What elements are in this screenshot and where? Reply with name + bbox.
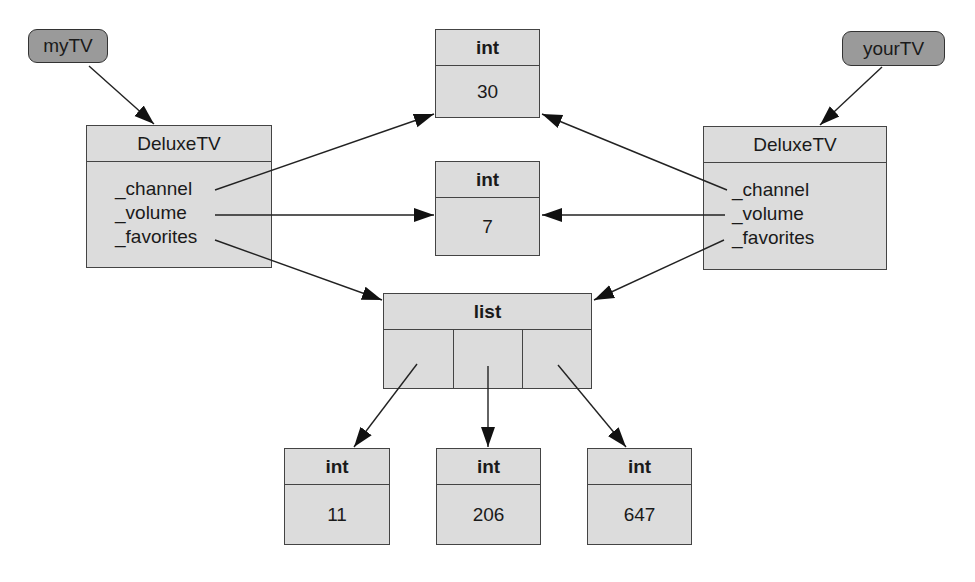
arrow-yourtv-to-deluxetv (820, 67, 882, 125)
object-value: 30 (436, 66, 539, 117)
int-object-647: int 647 (587, 448, 692, 545)
arrow-right-channel-to-int30 (542, 114, 727, 190)
object-type-label: int (477, 456, 500, 478)
field-channel: _channel (115, 177, 197, 201)
object-type-header: DeluxeTV (704, 127, 886, 163)
field-favorites: _favorites (115, 225, 197, 249)
object-type-label: int (476, 37, 499, 59)
object-value: 7 (436, 198, 539, 255)
variable-mytv: myTV (28, 29, 108, 63)
object-type-label: int (325, 456, 348, 478)
int-value: 30 (477, 81, 498, 103)
object-type-header: int (588, 449, 691, 485)
object-type-header: int (285, 449, 389, 485)
variable-label: myTV (43, 35, 93, 57)
field-list: _channel _volume _favorites (732, 178, 814, 250)
field-list: _channel _volume _favorites (115, 177, 197, 249)
int-object-channel: int 30 (435, 29, 540, 118)
object-type-label: DeluxeTV (137, 133, 220, 155)
object-type-header: int (436, 162, 539, 198)
int-value: 647 (624, 504, 656, 526)
int-object-206: int 206 (436, 448, 541, 545)
field-volume: _volume (732, 202, 814, 226)
deluxetv-object-left: DeluxeTV _channel _volume _favorites (86, 125, 272, 268)
int-object-volume: int 7 (435, 161, 540, 256)
object-type-header: DeluxeTV (87, 126, 271, 162)
int-object-11: int 11 (284, 448, 390, 545)
variable-label: yourTV (863, 38, 924, 60)
object-value: 647 (588, 485, 691, 544)
object-type-header: int (436, 30, 539, 66)
arrow-mytv-to-deluxetv (89, 66, 154, 124)
field-favorites: _favorites (732, 226, 814, 250)
int-value: 206 (473, 504, 505, 526)
list-cell-2 (523, 330, 593, 388)
object-value: 11 (285, 485, 389, 544)
variable-yourtv: yourTV (842, 31, 945, 66)
list-cell-1 (454, 330, 523, 388)
deluxetv-object-right: DeluxeTV _channel _volume _favorites (703, 126, 887, 270)
object-type-label: int (628, 456, 651, 478)
field-channel: _channel (732, 178, 814, 202)
int-value: 11 (327, 504, 347, 526)
object-type-label: int (476, 169, 499, 191)
field-volume: _volume (115, 201, 197, 225)
object-type-header: int (437, 449, 540, 485)
object-value: 206 (437, 485, 540, 544)
object-type-header: list (384, 294, 591, 330)
list-cell-0 (384, 330, 454, 388)
object-type-label: list (474, 301, 501, 323)
list-object: list (383, 293, 592, 389)
int-value: 7 (482, 216, 493, 238)
list-cells (384, 330, 591, 388)
object-type-label: DeluxeTV (753, 134, 836, 156)
